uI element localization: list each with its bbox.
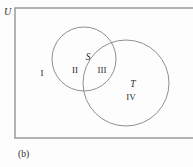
figure-caption: (b) xyxy=(18,149,29,160)
venn-diagram-canvas: U S T I II III IV (b) xyxy=(0,0,193,167)
universe-label: U xyxy=(4,6,12,17)
region-label-iv: IV xyxy=(126,92,136,102)
region-label-ii: II xyxy=(72,65,78,75)
set-circle-s xyxy=(52,27,116,91)
set-label-s: S xyxy=(86,52,91,62)
venn-diagram-figure: U S T I II III IV (b) xyxy=(0,0,193,167)
region-label-iii: III xyxy=(98,65,107,75)
set-circle-t xyxy=(83,40,169,126)
region-label-i: I xyxy=(41,68,44,78)
set-label-t: T xyxy=(130,79,136,89)
